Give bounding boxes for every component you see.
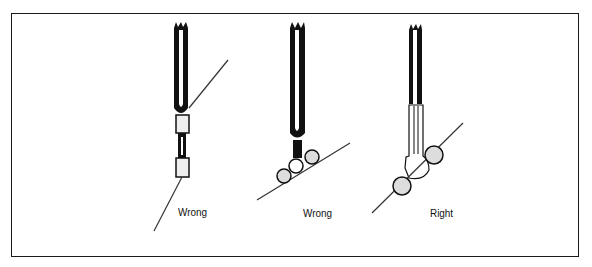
panel-1-tool (154, 22, 228, 231)
illustration (0, 0, 592, 267)
panel-3-label: Right (430, 207, 453, 219)
panel-1-label: Wrong (178, 206, 207, 218)
panel-2-tool (257, 22, 350, 200)
panel-3-tool (372, 24, 463, 213)
panel-2-label: Wrong (303, 207, 332, 219)
